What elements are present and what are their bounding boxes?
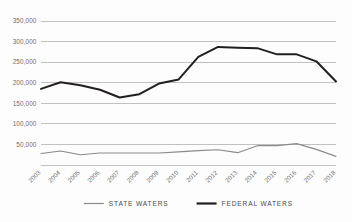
chart-legend: STATE WATERSFEDERAL WATERS — [84, 200, 293, 207]
y-tick-label: 150,000 — [13, 100, 37, 107]
legend-label-federal-waters: FEDERAL WATERS — [222, 200, 293, 207]
line-chart: 350,000300,000250,000200,000150,000100,0… — [0, 0, 352, 222]
chart-canvas: 350,000300,000250,000200,000150,000100,0… — [0, 0, 352, 222]
x-tick-label: 2007 — [105, 168, 120, 183]
x-tick-label: 2013 — [223, 168, 238, 183]
x-tick-label: 2009 — [145, 168, 160, 183]
x-tick-label: 2008 — [125, 168, 140, 183]
y-tick-label: 50,000 — [16, 141, 36, 148]
data-series — [41, 47, 336, 156]
x-tick-label: 2014 — [243, 168, 258, 183]
x-tick-label: 2010 — [164, 168, 179, 183]
series-line-federal-waters — [41, 47, 336, 98]
x-tick-label: 2016 — [282, 168, 297, 183]
x-tick-label: 2006 — [86, 168, 101, 183]
x-tick-label: 2018 — [322, 168, 337, 183]
x-tick-label: 2012 — [204, 168, 219, 183]
x-tick-label: 2003 — [27, 168, 42, 183]
y-tick-label: 100,000 — [13, 120, 37, 127]
series-line-state-waters — [41, 144, 336, 157]
x-axis-tick-labels: 2003200420052006200720082009201020112012… — [27, 168, 337, 183]
x-tick-label: 2015 — [263, 168, 278, 183]
y-tick-label: 250,000 — [13, 58, 37, 65]
y-tick-label: 300,000 — [13, 38, 37, 45]
y-tick-label: 200,000 — [13, 79, 37, 86]
x-tick-label: 2011 — [184, 168, 199, 183]
x-tick-label: 2005 — [66, 168, 81, 183]
x-tick-label: 2004 — [46, 168, 61, 183]
legend-label-state-waters: STATE WATERS — [109, 200, 169, 207]
y-tick-label: 350,000 — [13, 17, 37, 24]
x-tick-label: 2017 — [302, 168, 317, 183]
gridlines — [41, 21, 336, 165]
y-axis-tick-labels: 350,000300,000250,000200,000150,000100,0… — [13, 17, 37, 147]
